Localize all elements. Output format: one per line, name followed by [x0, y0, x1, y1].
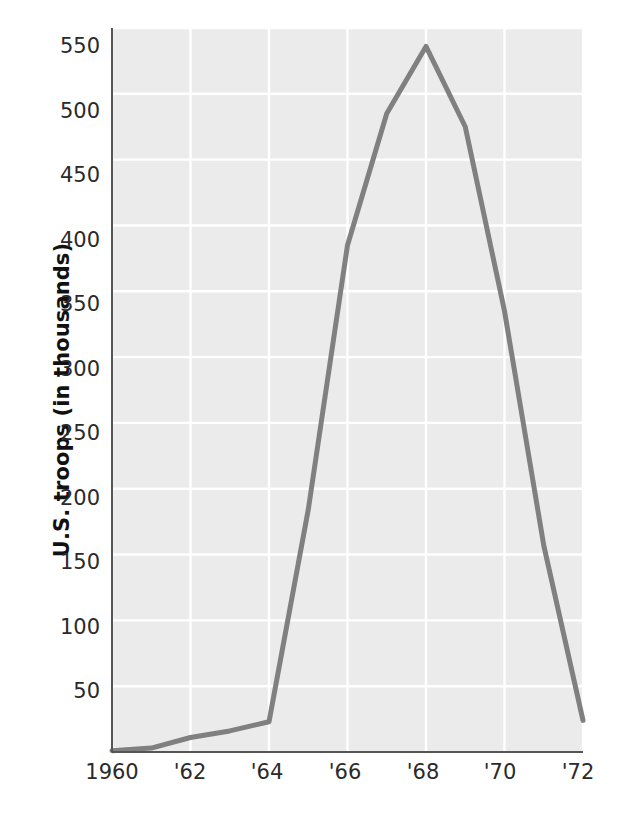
plot-area [0, 0, 626, 824]
chart-figure: U.S. troops (in thousands) 50 100 150 20… [0, 0, 626, 824]
